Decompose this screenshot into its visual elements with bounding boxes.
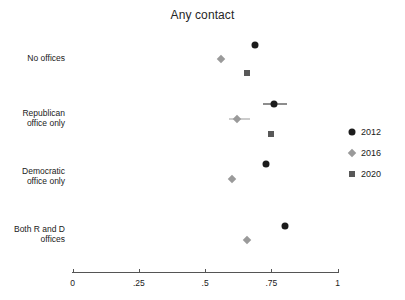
x-tick-label: 1 <box>335 278 340 288</box>
category-label-line: Republican <box>0 108 65 118</box>
data-point-2020[interactable] <box>268 131 274 137</box>
x-tick-label: .5 <box>202 278 209 288</box>
category-label-line: Both R and D <box>0 224 65 234</box>
category-label-republican-office-only: Republican office only <box>0 108 65 128</box>
legend-item-2020[interactable]: 2020 <box>346 168 381 180</box>
data-point-2016[interactable] <box>217 55 225 63</box>
x-tick-label: .75 <box>265 278 277 288</box>
data-point-2016[interactable] <box>243 236 251 244</box>
data-point-2016[interactable] <box>233 115 241 123</box>
category-label-both-r-and-d-offices: Both R and D offices <box>0 224 65 244</box>
legend-label: 2016 <box>361 148 381 158</box>
category-label-line: offices <box>0 234 65 244</box>
category-label-no-offices: No offices <box>0 53 65 63</box>
x-tick <box>139 269 140 273</box>
category-label-democratic-office-only: Democratic office only <box>0 166 65 186</box>
legend: 2012 2016 2020 <box>346 126 401 188</box>
category-label-line: office only <box>0 176 65 186</box>
data-point-2016[interactable] <box>227 175 235 183</box>
x-tick <box>205 269 206 273</box>
data-point-2012[interactable] <box>263 161 270 168</box>
x-tick <box>271 269 272 273</box>
x-tick-label: 0 <box>70 278 75 288</box>
legend-key-circle-icon <box>346 126 358 138</box>
category-label-line: office only <box>0 118 65 128</box>
legend-item-2016[interactable]: 2016 <box>346 147 381 159</box>
x-tick <box>338 269 339 273</box>
chart-canvas: Any contact No offices Republican office… <box>0 0 405 300</box>
data-point-2020[interactable] <box>244 70 250 76</box>
x-tick <box>73 269 74 273</box>
legend-label: 2020 <box>361 169 381 179</box>
data-point-2012[interactable] <box>270 101 277 108</box>
data-point-2012[interactable] <box>252 42 259 49</box>
x-tick-label: .25 <box>133 278 145 288</box>
plot-area: No offices Republican office only Democr… <box>0 0 405 300</box>
legend-label: 2012 <box>361 127 381 137</box>
data-point-2012[interactable] <box>281 223 288 230</box>
legend-item-2012[interactable]: 2012 <box>346 126 381 138</box>
category-label-line: Democratic <box>0 166 65 176</box>
legend-key-square-icon <box>346 168 358 180</box>
category-label-line: No offices <box>27 53 65 63</box>
legend-key-diamond-icon <box>346 147 358 159</box>
